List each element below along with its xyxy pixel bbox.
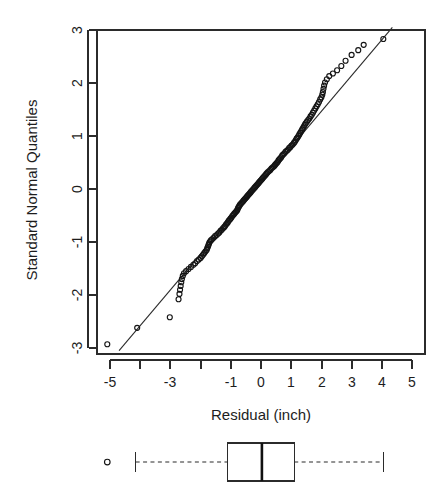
- y-tick-label: 1: [69, 132, 85, 140]
- y-tick-label: 0: [69, 185, 85, 193]
- x-axis-title: Residual (inch): [211, 406, 311, 423]
- x-tick-label: -3: [164, 374, 177, 390]
- y-tick-label: 3: [69, 26, 85, 34]
- x-tick-label: 5: [408, 374, 416, 390]
- y-axis-title: Standard Normal Quantiles: [23, 100, 40, 281]
- x-tick-label: 0: [257, 374, 265, 390]
- normal-qq-plot-figure: 3 2 1 0 -1 -2 -3 Standard Normal Quantil…: [0, 0, 448, 488]
- x-tick-label: -5: [104, 374, 117, 390]
- y-tick-label: -1: [69, 236, 85, 249]
- y-tick-label: 2: [69, 79, 85, 87]
- x-tick-label: -1: [225, 374, 238, 390]
- y-tick-label: -2: [69, 289, 85, 302]
- y-tick-label: -3: [69, 342, 85, 355]
- x-tick-label: 3: [348, 374, 356, 390]
- x-tick-label: 1: [287, 374, 295, 390]
- x-tick-label: 2: [318, 374, 326, 390]
- x-tick-label: 4: [378, 374, 386, 390]
